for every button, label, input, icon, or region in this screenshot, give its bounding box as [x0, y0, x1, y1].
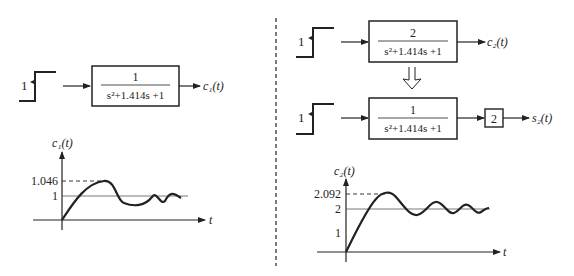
diagram-canvas: 1 1 s²+1.414s +1 c₁(t) c₁(t) t 1.046 1 1…: [0, 0, 574, 276]
right-top-block-diagram: 1 2 s²+1.414s +1 c₂(t): [296, 21, 508, 62]
y-axis-label: c₂(t): [334, 164, 355, 178]
tf-numerator: 2: [410, 26, 416, 40]
x-axis-label: t: [209, 213, 213, 227]
output-label: c₁(t): [203, 79, 224, 93]
left-response-graph: c₁(t) t 1.046 1: [31, 136, 213, 230]
step-label: 1: [21, 78, 28, 93]
right-bottom-block-diagram: 1 1 s²+1.414s +1 2 s₂(t): [296, 98, 552, 139]
step-label: 1: [298, 34, 305, 49]
steady-label: 1: [52, 189, 58, 203]
peak-label: 1.046: [31, 174, 58, 188]
right-response-graph: c₂(t) t 2.092 2 1: [314, 164, 507, 262]
tf-denominator: s²+1.414s +1: [384, 45, 441, 57]
tick-label-1: 1: [335, 226, 341, 240]
output-label: s₂(t): [532, 111, 552, 125]
left-block-diagram: 1 1 s²+1.414s +1 c₁(t): [19, 66, 224, 106]
response-curve: [346, 193, 489, 252]
response-curve: [62, 181, 181, 220]
steady-label: 2: [335, 202, 341, 216]
y-axis-label: c₁(t): [52, 136, 73, 150]
peak-label: 2.092: [314, 187, 341, 201]
output-label: c₂(t): [487, 35, 508, 49]
step-label: 1: [298, 110, 305, 125]
x-axis-label: t: [503, 245, 507, 259]
tf-numerator: 1: [410, 103, 416, 117]
tf-numerator: 1: [133, 70, 139, 84]
double-down-arrow-icon: [403, 67, 421, 89]
gain-value: 2: [491, 112, 497, 126]
tf-denominator: s²+1.414s +1: [107, 89, 164, 101]
tf-denominator: s²+1.414s +1: [384, 122, 441, 134]
